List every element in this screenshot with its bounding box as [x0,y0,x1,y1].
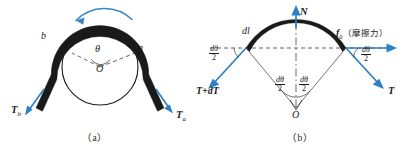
friction-force-arrow-icon [346,43,397,52]
caption-b: （b） [287,130,313,144]
label-friction-force: f0（摩擦力） [336,28,388,41]
figure-container: b a θ O Tb Ta （a） [0,0,407,151]
panel-a-diagram [0,0,200,151]
caption-a: （a） [82,130,108,144]
tension-a-subscript: a [182,115,186,123]
tension-plus-dt-symbol: T+dT [196,85,219,96]
label-center-angle-right: dθ 2 [299,76,309,94]
label-center-angle-left: dθ 2 [275,76,285,94]
label-point-a: a [138,43,143,53]
friction-note: （摩擦力） [343,28,388,38]
label-tension-t: T [388,86,394,97]
label-normal-force-n: N [300,7,308,18]
label-arc-length-dl: dl [242,26,250,36]
center-angle-left-den: 2 [275,85,285,93]
radius-line-right [100,53,135,67]
label-tension-a: Ta [176,110,186,123]
label-half-angle-left: dθ 2 [209,45,219,63]
label-tension-b: Tb [11,105,21,118]
label-tension-plus-dt: T+dT [196,86,219,96]
rotation-arrow-icon [76,9,132,25]
radius-left-line [246,48,296,108]
tension-b-subscript: b [17,110,21,118]
label-half-angle-right: dθ 2 [361,46,371,64]
label-point-b: b [41,31,46,41]
label-center-o-a: O [96,64,103,74]
label-angle-theta: θ [95,44,100,55]
center-angle-right-den: 2 [299,85,309,93]
half-angle-right-den: 2 [361,55,371,63]
label-center-o-b: O [292,110,299,120]
half-angle-left-den: 2 [209,54,219,62]
